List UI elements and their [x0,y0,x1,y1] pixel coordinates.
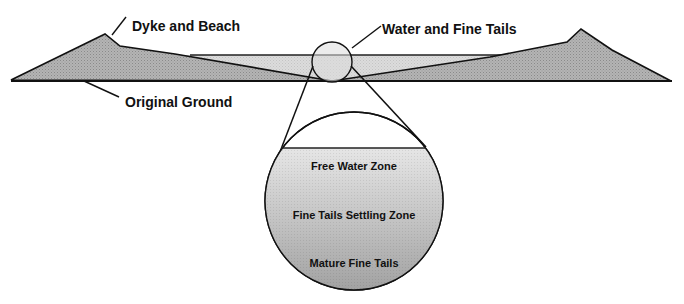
dyke-and-beach-label: Dyke and Beach [132,18,240,34]
magnified-section [260,112,460,298]
ground-leader-line [84,81,119,97]
magnifier-small-circle [312,42,352,82]
water-leader-line [352,26,381,48]
water-and-fine-tails-label: Water and Fine Tails [382,21,517,37]
dyke-leader-line [112,17,126,35]
free-water-zone-label: Free Water Zone [311,160,397,172]
tailings-pond-diagram: Dyke and Beach Water and Fine Tails Orig… [0,0,684,304]
mature-fine-tails-label: Mature Fine Tails [309,257,398,269]
fine-tails-settling-zone-label: Fine Tails Settling Zone [293,209,416,221]
original-ground-label: Original Ground [125,94,232,110]
